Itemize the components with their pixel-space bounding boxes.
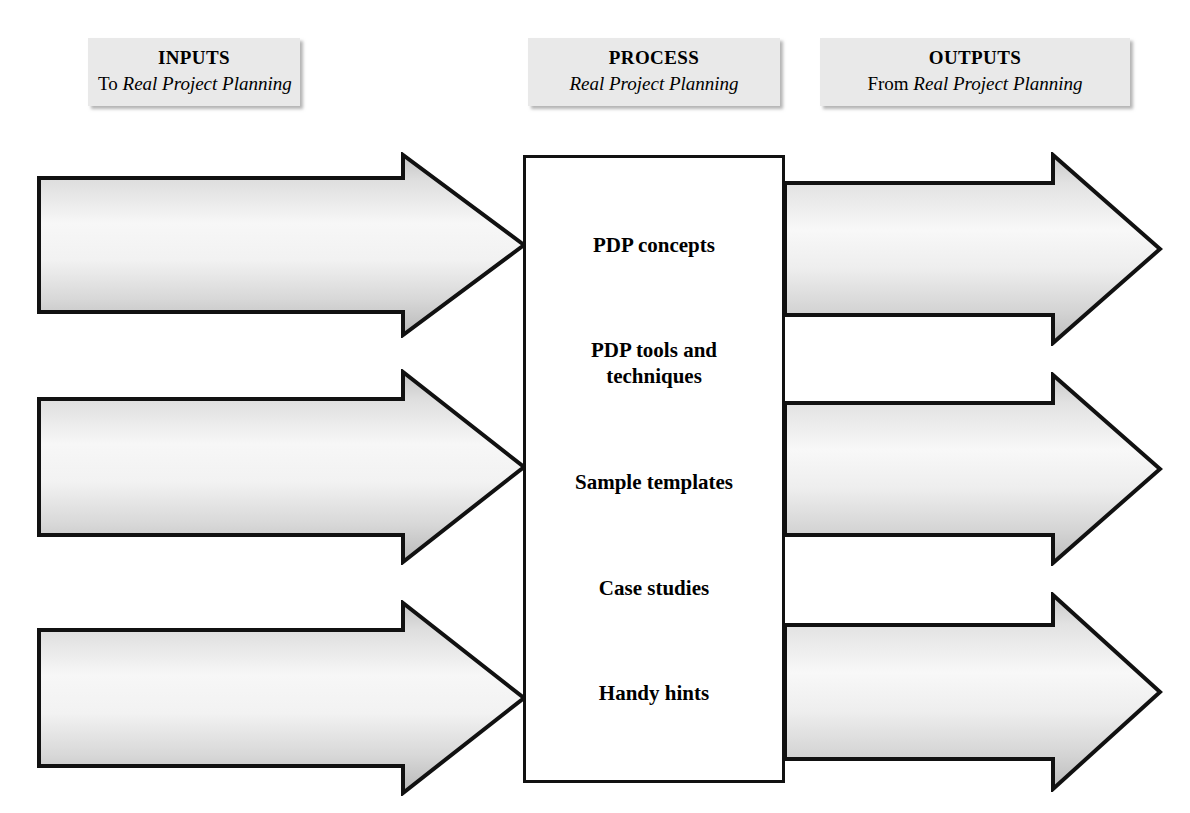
output-arrow-2	[785, 372, 1163, 566]
output-arrow-3-shape	[785, 592, 1163, 792]
input-arrow-1	[37, 152, 527, 338]
output-arrow-2-shape	[785, 372, 1163, 566]
header-outputs-sub-italic: Real Project Planning	[913, 73, 1082, 94]
header-process-subtitle: Real Project Planning	[538, 72, 770, 96]
process-item-5: Handy hints	[551, 680, 757, 706]
header-outputs: OUTPUTS From Real Project Planning	[820, 38, 1130, 106]
header-process-title: PROCESS	[538, 46, 770, 70]
header-inputs-sub-prefix: To	[98, 73, 123, 94]
input-arrow-1-shape	[37, 152, 527, 338]
header-outputs-sub-prefix: From	[867, 73, 913, 94]
output-arrow-3	[785, 592, 1163, 792]
header-inputs-title: INPUTS	[98, 46, 290, 70]
process-item-4: Case studies	[551, 575, 757, 601]
process-box: PDP concepts PDP tools and techniques Sa…	[523, 155, 785, 783]
header-inputs-subtitle: To Real Project Planning	[98, 72, 290, 96]
header-process: PROCESS Real Project Planning	[528, 38, 780, 106]
input-arrow-3	[37, 600, 527, 796]
process-item-3: Sample templates	[551, 469, 757, 495]
process-item-2: PDP tools and techniques	[551, 337, 757, 390]
header-process-sub-italic: Real Project Planning	[569, 73, 738, 94]
process-item-1: PDP concepts	[551, 232, 757, 258]
header-inputs: INPUTS To Real Project Planning	[88, 38, 300, 106]
output-arrow-1	[785, 152, 1163, 346]
header-inputs-sub-italic: Real Project Planning	[123, 73, 292, 94]
output-arrow-1-shape	[785, 152, 1163, 346]
input-arrow-3-shape	[37, 600, 527, 796]
input-arrow-2-shape	[37, 369, 527, 565]
header-outputs-title: OUTPUTS	[830, 46, 1120, 70]
header-outputs-subtitle: From Real Project Planning	[830, 72, 1120, 96]
input-arrow-2	[37, 369, 527, 565]
